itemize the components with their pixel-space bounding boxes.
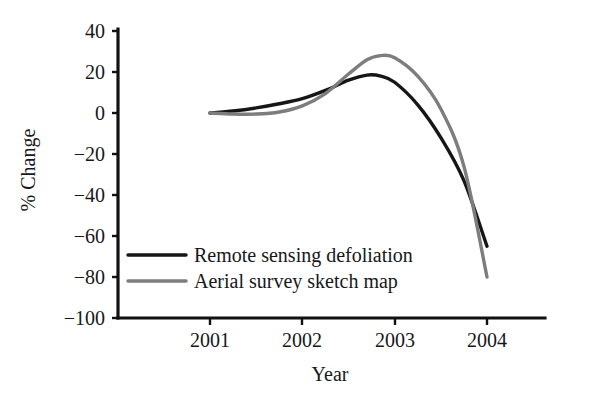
y-axis-title: % Change xyxy=(17,129,40,212)
legend-label-aerial-survey: Aerial survey sketch map xyxy=(194,270,398,293)
y-tick-label: −100 xyxy=(64,307,105,329)
y-tick-label: −40 xyxy=(74,184,105,206)
y-tick-label: 20 xyxy=(85,61,105,83)
x-axis-title: Year xyxy=(312,363,349,385)
y-tick-label: 0 xyxy=(95,102,105,124)
chart-figure: 40 20 0 −20 −40 −60 −80 −100 2001 2002 2… xyxy=(0,0,611,396)
x-tick-label: 2002 xyxy=(282,329,322,351)
series-line-remote-sensing-defoliation xyxy=(210,75,487,246)
legend-label-remote-sensing: Remote sensing defoliation xyxy=(194,244,413,267)
y-tick-label: −20 xyxy=(74,143,105,165)
y-axis-tick-labels: 40 20 0 −20 −40 −60 −80 −100 xyxy=(64,20,105,329)
x-axis-tick-labels: 2001 2002 2003 2004 xyxy=(190,329,507,351)
y-tick-label: −80 xyxy=(74,266,105,288)
x-tick-label: 2003 xyxy=(375,329,415,351)
line-chart: 40 20 0 −20 −40 −60 −80 −100 2001 2002 2… xyxy=(0,0,611,396)
x-tick-label: 2001 xyxy=(190,329,230,351)
legend: Remote sensing defoliation Aerial survey… xyxy=(128,244,413,293)
x-tick-label: 2004 xyxy=(467,329,507,351)
y-tick-label: −60 xyxy=(74,225,105,247)
y-tick-label: 40 xyxy=(85,20,105,42)
